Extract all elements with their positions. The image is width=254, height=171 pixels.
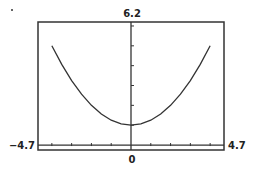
xmin-label: −4.7 <box>9 140 35 151</box>
origin-label: 0 <box>129 154 136 165</box>
stray-dot <box>11 9 13 11</box>
ymax-label: 6.2 <box>123 8 141 19</box>
graph-chart: 6.2 −4.7 4.7 0 <box>0 0 254 171</box>
xmax-label: 4.7 <box>228 140 246 151</box>
